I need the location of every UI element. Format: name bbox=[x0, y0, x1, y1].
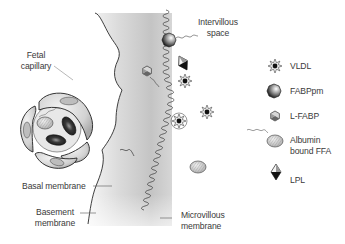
nucleus bbox=[60, 97, 78, 105]
albumin-ffa-icon bbox=[37, 117, 53, 129]
albumin-ffa-icon bbox=[190, 161, 206, 173]
legend-fabppm-icon bbox=[267, 84, 281, 98]
l-fabp-hexagon-icon bbox=[143, 66, 152, 76]
intervillous-space-label: Intervillous space bbox=[190, 17, 246, 38]
lpl-diamond-icon bbox=[175, 54, 192, 73]
microvillous-membrane-label: Microvillous membrane bbox=[181, 210, 225, 231]
vldl-star-icon bbox=[200, 105, 214, 119]
fetal-capillary-label: Fetal capillary bbox=[14, 50, 58, 71]
nucleus bbox=[23, 122, 30, 138]
basal-membrane-label: Basal membrane bbox=[22, 181, 86, 192]
syncytiotrophoblast bbox=[88, 13, 172, 226]
legend-l-fabp-icon bbox=[271, 111, 280, 121]
legend-vldl-label: VLDL bbox=[290, 61, 311, 72]
legend-lpl-icon bbox=[271, 164, 281, 180]
legend-albumin-ffa-label: Albumin bound FFA bbox=[290, 135, 331, 156]
legend-fabppm-label: FABPpm bbox=[290, 86, 323, 97]
basement-membrane-label: Basement membrane bbox=[30, 207, 80, 228]
legend-albumin-ffa-icon bbox=[267, 135, 283, 147]
fetal-capillary bbox=[21, 93, 93, 168]
fabppm-sphere-icon bbox=[162, 33, 176, 47]
legend-lpl-label: LPL bbox=[290, 175, 305, 186]
legend-vldl-icon bbox=[268, 59, 282, 73]
vldl-star-icon bbox=[178, 74, 192, 88]
legend-l-fabp-label: L-FABP bbox=[290, 111, 319, 122]
vldl-star-icon bbox=[172, 114, 186, 128]
